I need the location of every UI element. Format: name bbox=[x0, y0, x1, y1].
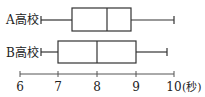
x-axis bbox=[20, 71, 174, 77]
boxplot-b bbox=[41, 41, 167, 63]
tick-6: 6 bbox=[16, 80, 24, 94]
label-b-school: B高校 bbox=[6, 45, 39, 60]
tick-7: 7 bbox=[54, 80, 62, 94]
label-a-school: A高校 bbox=[5, 12, 39, 27]
boxplot-chart: A高校 B高校 6 7 8 9 10 (秒) bbox=[0, 0, 205, 97]
tick-8: 8 bbox=[93, 80, 101, 94]
axis-unit: (秒) bbox=[182, 80, 202, 94]
boxplot-a bbox=[41, 8, 174, 31]
tick-9: 9 bbox=[132, 80, 140, 94]
tick-10: 10 bbox=[166, 80, 181, 94]
